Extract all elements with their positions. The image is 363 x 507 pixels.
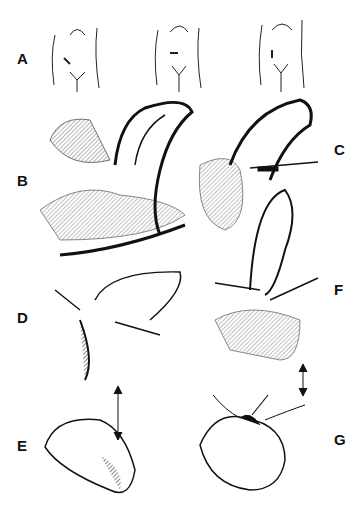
surgical-illustration [0, 0, 363, 507]
panel-d-organ [55, 272, 181, 440]
panel-a-torsos [52, 20, 304, 92]
panel-b-organ [40, 102, 192, 255]
panel-e-organ [45, 419, 135, 492]
panel-c-organ [199, 100, 318, 230]
panel-g-organ [200, 395, 305, 490]
